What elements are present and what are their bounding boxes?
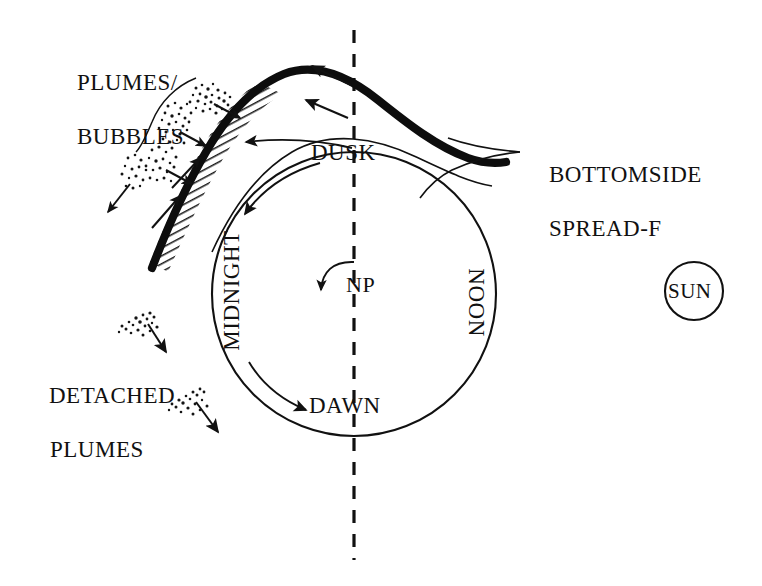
plumes-bubbles-line2: BUBBLES (77, 124, 184, 149)
plumes-bubbles-label: PLUMES/ BUBBLES (52, 42, 184, 178)
bottomside-line1: BOTTOMSIDE (549, 162, 702, 187)
bottomside-spread-f-label: BOTTOMSIDE SPREAD-F (524, 134, 702, 270)
ionosphere-plume-diagram: PLUMES/ BUBBLES DETACHED PLUMES BOTTOMSI… (0, 0, 762, 586)
north-pole-label: NP (346, 272, 375, 298)
detached-plumes-label: DETACHED PLUMES (24, 355, 175, 518)
detached-plumes-line1: DETACHED (49, 383, 175, 408)
eastward-drift-arrow-lower (306, 100, 348, 118)
bottomside-line2: SPREAD-F (549, 216, 662, 241)
midnight-to-dawn-arrow (249, 362, 306, 410)
plume-arrow-d (108, 184, 130, 212)
noon-label: NOON (463, 268, 490, 336)
detached-plumes-line2: PLUMES (24, 436, 175, 463)
plumes-bubbles-line1: PLUMES/ (77, 70, 178, 95)
sun-label: SUN (668, 279, 712, 304)
dawn-label: DAWN (309, 392, 381, 419)
midnight-label: MIDNIGHT (218, 230, 245, 350)
dusk-label: DUSK (311, 139, 376, 166)
